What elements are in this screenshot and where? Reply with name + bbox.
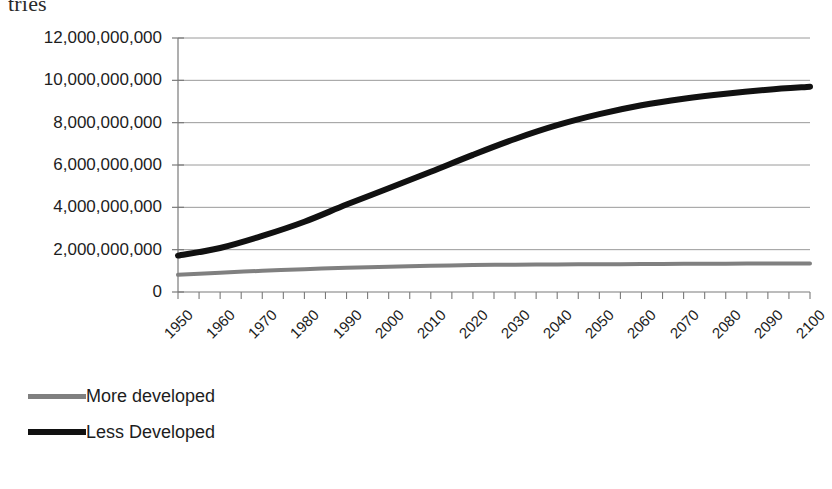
x-axis-tick-labels: 1950196019701980199020002010202020302040… [0, 0, 832, 380]
x-axis-tick-label: 2040 [526, 306, 575, 355]
x-axis-tick-label: 2100 [779, 306, 828, 355]
x-axis-tick-label: 2000 [358, 306, 407, 355]
x-axis-tick-label: 2030 [484, 306, 533, 355]
black-line-swatch [28, 429, 86, 435]
x-axis-tick-label: 2010 [400, 306, 449, 355]
x-axis-tick-label: 1970 [231, 306, 280, 355]
x-axis-tick-label: 2080 [695, 306, 744, 355]
legend-item-less-developed: Less Developed [28, 414, 448, 450]
x-axis-tick-label: 2020 [442, 306, 491, 355]
x-axis-tick-label: 2090 [737, 306, 786, 355]
legend-label-less-developed: Less Developed [86, 423, 215, 441]
x-axis-tick-label: 1980 [274, 306, 323, 355]
legend-item-more-developed: More developed [28, 378, 448, 414]
x-axis-tick-label: 2060 [611, 306, 660, 355]
x-axis-tick-label: 1990 [316, 306, 365, 355]
legend-label-more-developed: More developed [86, 387, 215, 405]
population-projection-line-chart: 02,000,000,0004,000,000,0006,000,000,000… [0, 0, 832, 489]
x-axis-tick-label: 1960 [189, 306, 238, 355]
x-axis-tick-label: 1950 [147, 306, 196, 355]
gray-line-swatch [28, 394, 86, 399]
x-axis-tick-label: 2050 [569, 306, 618, 355]
x-axis-tick-label: 2070 [653, 306, 702, 355]
chart-legend: More developed Less Developed [28, 378, 448, 450]
